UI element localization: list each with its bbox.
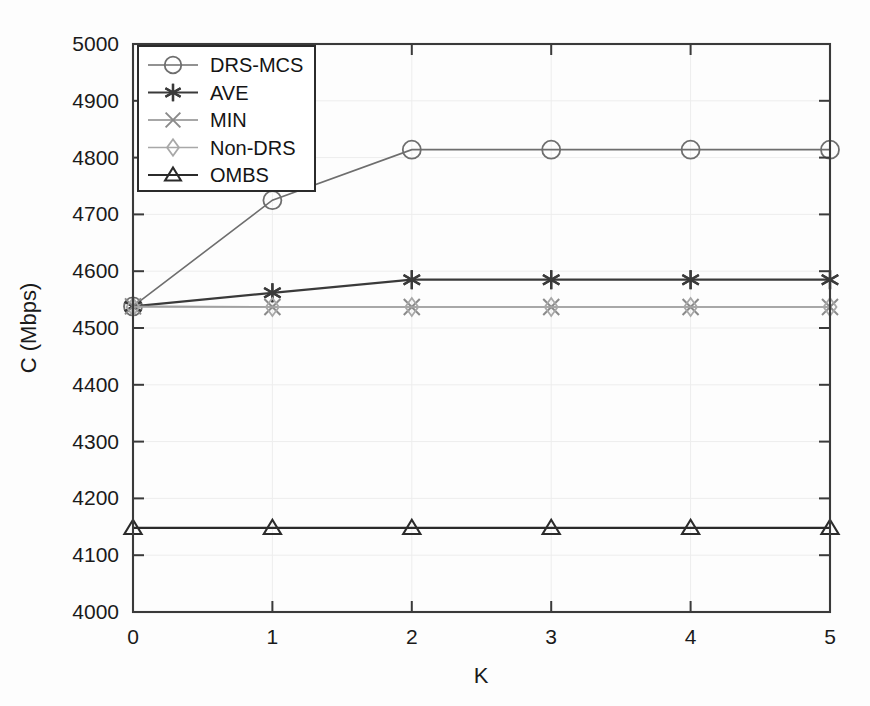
legend-label-drs-mcs: DRS-MCS: [210, 54, 303, 76]
series-ave: [125, 270, 838, 316]
y-tick-label: 4600: [72, 259, 119, 282]
legend-label-ombs: OMBS: [210, 164, 269, 186]
y-tick-label: 4000: [72, 600, 119, 623]
x-axis-title: K: [474, 663, 489, 688]
x-tick-label: 0: [127, 625, 139, 648]
legend-label-non-drs: Non-DRS: [210, 137, 296, 159]
x-tick-label: 1: [267, 625, 279, 648]
legend: DRS-MCSAVEMINNon-DRSOMBS: [138, 46, 315, 191]
series-line: [133, 280, 830, 307]
line-chart: 4000410042004300440045004600470048004900…: [0, 0, 870, 706]
x-tick-label: 5: [824, 625, 836, 648]
x-tick-label: 2: [406, 625, 418, 648]
x-tick-labels: 012345: [127, 625, 836, 648]
figure-page: 4000410042004300440045004600470048004900…: [0, 0, 870, 706]
y-tick-label: 4400: [72, 373, 119, 396]
y-tick-label: 5000: [72, 32, 119, 55]
x-tick-label: 4: [685, 625, 697, 648]
y-tick-label: 4300: [72, 430, 119, 453]
y-tick-label: 4100: [72, 543, 119, 566]
legend-label-min: MIN: [210, 109, 247, 131]
y-tick-label: 4800: [72, 146, 119, 169]
y-axis-title: C (Mbps): [16, 283, 41, 373]
series-non-drs: [127, 298, 837, 316]
y-tick-label: 4700: [72, 202, 119, 225]
y-tick-label: 4900: [72, 89, 119, 112]
y-tick-labels: 4000410042004300440045004600470048004900…: [72, 32, 119, 623]
series-ombs: [124, 520, 838, 534]
y-tick-label: 4200: [72, 486, 119, 509]
x-tick-label: 3: [545, 625, 557, 648]
legend-label-ave: AVE: [210, 82, 249, 104]
y-tick-label: 4500: [72, 316, 119, 339]
series-layer: [124, 141, 839, 534]
